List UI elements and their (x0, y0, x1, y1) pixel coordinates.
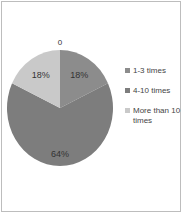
legend-item: 1-3 times (125, 66, 181, 76)
zero-label: 0 (58, 38, 63, 47)
legend-label: 4-10 times (133, 86, 170, 96)
legend: 1-3 times 4-10 times More than 10 times (125, 66, 181, 136)
legend-item: 4-10 times (125, 86, 181, 96)
slice-label: 64% (51, 149, 69, 159)
legend-swatch-icon (125, 88, 130, 93)
slice-label: 18% (32, 70, 50, 80)
legend-label: More than 10 times (133, 106, 181, 126)
legend-swatch-icon (125, 68, 130, 73)
legend-swatch-icon (125, 108, 130, 113)
legend-item: More than 10 times (125, 106, 181, 126)
legend-label: 1-3 times (133, 66, 166, 76)
slice-label: 18% (70, 70, 88, 80)
